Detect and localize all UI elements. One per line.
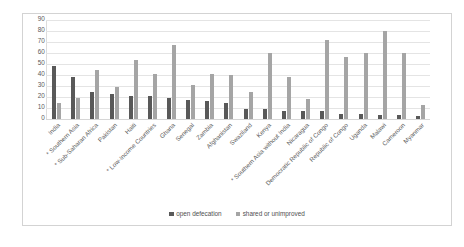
legend-item[interactable]: open defecation xyxy=(169,211,221,217)
bar xyxy=(153,74,157,119)
bar-group xyxy=(66,20,85,119)
plot-area xyxy=(46,20,430,119)
bar xyxy=(287,77,291,119)
bar xyxy=(402,53,406,119)
bar xyxy=(57,103,61,120)
bar xyxy=(71,77,75,119)
bar-group xyxy=(143,20,162,119)
bar-group xyxy=(392,20,411,119)
y-axis-tick-label: 40 xyxy=(23,71,45,77)
chart-screenshot: 9080706050403020100 IndiaSouthern Asia *… xyxy=(0,0,464,247)
y-axis-tick-label: 30 xyxy=(23,82,45,88)
bar xyxy=(52,66,56,119)
chart-legend: open defecationshared or unimproved xyxy=(23,211,451,217)
legend-color-swatch xyxy=(169,212,174,217)
y-axis-tick-label: 60 xyxy=(23,49,45,55)
x-axis-label-cell: Myanmar xyxy=(412,120,431,206)
bar xyxy=(76,98,80,119)
bar xyxy=(416,116,420,119)
y-axis: 9080706050403020100 xyxy=(23,19,45,118)
bar-group xyxy=(200,20,219,119)
legend-item[interactable]: shared or unimproved xyxy=(236,211,305,217)
bar-group xyxy=(124,20,143,119)
bar-group xyxy=(277,20,296,119)
bar xyxy=(383,31,387,119)
bar-group xyxy=(219,20,238,119)
legend-label: shared or unimproved xyxy=(243,211,305,217)
y-axis-tick-label: 70 xyxy=(23,38,45,44)
y-axis-tick-label: 50 xyxy=(23,60,45,66)
bar-group xyxy=(181,20,200,119)
legend-color-swatch xyxy=(236,212,241,217)
bar-group xyxy=(47,20,66,119)
y-axis-tick-label: 90 xyxy=(23,16,45,22)
chart-frame: 9080706050403020100 IndiaSouthern Asia *… xyxy=(22,13,452,226)
y-axis-tick-label: 20 xyxy=(23,93,45,99)
bar xyxy=(95,70,99,120)
y-axis-tick-label: 10 xyxy=(23,104,45,110)
legend-label: open defecation xyxy=(176,211,221,217)
y-axis-tick-label: 80 xyxy=(23,27,45,33)
bar xyxy=(210,74,214,119)
y-axis-tick-label: 0 xyxy=(23,115,45,121)
bar xyxy=(148,96,152,119)
bar-series-container xyxy=(47,20,430,119)
x-axis-category-labels: IndiaSouthern Asia *Sub-Saharan Africa *… xyxy=(47,120,431,206)
bar xyxy=(229,75,233,119)
